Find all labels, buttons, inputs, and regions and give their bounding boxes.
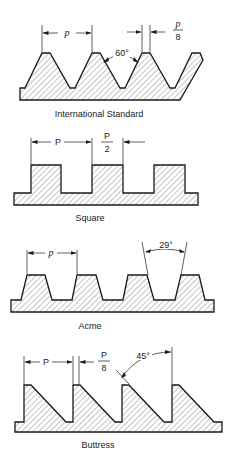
arc-arrow [179,249,185,253]
pitch-label: P [43,357,49,367]
buttress-caption: Buttress [81,440,115,450]
international-standard-thread-profile [20,53,203,100]
angle-label: 60° [115,48,129,58]
half-numerator: P [104,131,110,141]
square-panel: P P 2 Square [14,131,198,223]
thread-forms-diagram: p p 8 60° International Standard P P 2 S… [0,0,230,461]
buttress-thread-profile [15,385,222,432]
pitch-label: P [55,137,61,147]
acme-caption: Acme [78,321,101,331]
buttress-panel: P P 8 45° Buttress [15,347,222,450]
angle-label: 29° [159,240,173,250]
flat-numerator: p [175,18,181,29]
flank-extension [142,242,148,275]
pitch-label: p [48,247,54,258]
half-denominator: 2 [104,144,109,154]
square-thread-profile [14,165,198,205]
flat-denominator: 8 [175,32,180,42]
acme-panel: p 29° Acme [11,240,214,331]
flat-denominator: 8 [101,363,106,373]
international-standard-caption: International Standard [55,109,144,119]
square-caption: Square [75,213,104,223]
pitch-label: p [64,27,70,38]
arc-arrow [165,350,171,354]
flat-numerator: P [101,350,107,360]
flank-extension [181,242,187,275]
acme-thread-profile [11,275,214,312]
international-standard-panel: p p 8 60° International Standard [20,18,203,119]
arc-arrow [145,249,151,253]
angle-label: 45° [136,351,150,361]
